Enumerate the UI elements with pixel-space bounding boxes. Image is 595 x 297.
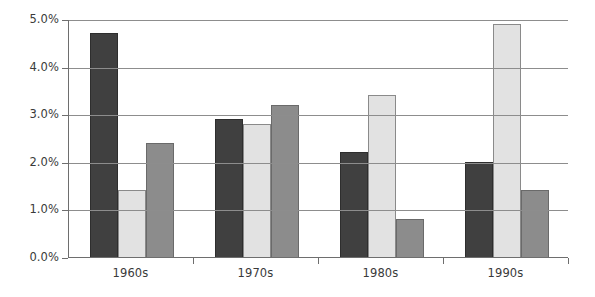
y-axis-tick-mark [62,210,68,211]
y-axis-tick-label: 4.0% [0,62,59,74]
x-axis-category-label: 1990s [446,268,566,280]
bar [271,105,299,257]
y-axis-tick-mark [62,68,68,69]
bar [118,190,146,257]
bar [243,124,271,257]
gridline [69,20,568,21]
x-axis-category-label: 1970s [196,268,316,280]
y-axis-tick-label: 3.0% [0,109,59,121]
y-axis-tick-label: 1.0% [0,205,59,217]
bars-layer [69,20,568,257]
x-axis-tick-mark [193,258,194,264]
bar [340,152,368,257]
bar [493,24,521,257]
x-axis-tick-mark [318,258,319,264]
y-axis-tick-label: 0.0% [0,252,59,264]
bar [396,219,424,257]
bar [368,95,396,257]
bar-group [215,20,299,257]
y-axis-tick-mark [62,20,68,21]
y-axis-tick-label: 5.0% [0,14,59,26]
bar-group [90,20,174,257]
x-axis-tick-mark [443,258,444,264]
x-axis-category-label: 1960s [71,268,191,280]
bar-chart: 0.0%1.0%2.0%3.0%4.0%5.0%1960s1970s1980s1… [0,0,595,297]
bar-group [340,20,424,257]
gridline [69,163,568,164]
y-axis-tick-mark [62,258,68,259]
bar [521,190,549,257]
y-axis-tick-label: 2.0% [0,157,59,169]
plot-area [68,20,568,258]
bar [215,119,243,257]
x-axis-category-label: 1980s [321,268,441,280]
gridline [69,68,568,69]
bar [146,143,174,257]
bar-group [465,20,549,257]
gridline [69,210,568,211]
y-axis-tick-mark [62,163,68,164]
gridline [69,115,568,116]
y-axis-tick-mark [62,115,68,116]
x-axis-tick-mark [568,258,569,264]
